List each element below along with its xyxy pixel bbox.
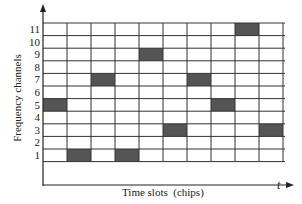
hop-cell	[163, 124, 187, 137]
hop-cell	[187, 73, 211, 86]
y-axis-arrow-icon	[40, 4, 46, 12]
y-tick-label: 7	[24, 74, 40, 85]
x-axis-arrow-icon	[286, 182, 294, 188]
y-tick-label: 3	[24, 125, 40, 136]
x-axis-symbol: t	[277, 178, 280, 193]
grid-lines	[43, 23, 285, 162]
hop-cell	[211, 99, 235, 112]
hop-cell	[91, 73, 115, 86]
y-tick-label: 9	[24, 49, 40, 60]
hop-cell	[43, 99, 67, 112]
y-tick-label: 10	[24, 37, 40, 48]
hop-cell	[67, 149, 91, 162]
y-tick-label: 11	[24, 24, 40, 35]
y-tick-label: 1	[24, 150, 40, 161]
hop-cell	[139, 48, 163, 61]
y-tick-label: 2	[24, 137, 40, 148]
y-tick-label: 8	[24, 62, 40, 73]
hop-cell	[259, 124, 283, 137]
y-tick-label: 6	[24, 87, 40, 98]
hop-cell	[235, 23, 259, 36]
y-axis-label: Frequency channels	[11, 43, 23, 153]
y-tick-label: 4	[24, 112, 40, 123]
hop-cell	[115, 149, 139, 162]
x-axis-label: Time slots (chips)	[122, 186, 204, 198]
y-tick-label: 5	[24, 100, 40, 111]
frequency-hopping-diagram	[0, 0, 302, 204]
